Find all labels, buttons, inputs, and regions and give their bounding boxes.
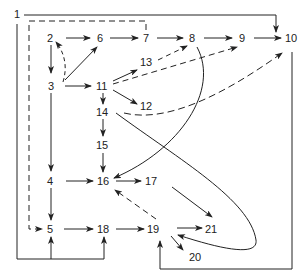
node-20: 20 <box>189 251 201 263</box>
node-19: 19 <box>147 223 159 235</box>
edge-1-10 <box>24 15 276 32</box>
node-16: 16 <box>97 175 109 187</box>
edge-11-13 <box>113 70 137 81</box>
flow-diagram: 1 2 3 4 5 6 7 8 9 10 11 12 13 14 15 16 1… <box>0 0 308 280</box>
node-10: 10 <box>285 32 297 44</box>
edge-11-9 <box>113 47 237 84</box>
node-14: 14 <box>96 106 108 118</box>
edge-17-21 <box>172 187 212 217</box>
node-12: 12 <box>140 100 152 112</box>
edge-19-16 <box>115 190 156 219</box>
edge-3-6 <box>65 47 97 80</box>
node-8: 8 <box>189 32 195 44</box>
node-6: 6 <box>97 32 103 44</box>
node-11: 11 <box>96 80 107 92</box>
node-9: 9 <box>239 32 245 44</box>
node-7: 7 <box>143 32 149 44</box>
edge-1-left <box>17 24 104 259</box>
node-5: 5 <box>47 223 53 235</box>
edge-8-16 <box>114 47 204 178</box>
node-2: 2 <box>47 32 53 44</box>
node-13: 13 <box>140 56 152 68</box>
node-4: 4 <box>47 175 53 187</box>
edge-10-19 <box>160 52 292 269</box>
node-3: 3 <box>48 80 54 92</box>
edge-11-12 <box>113 90 137 104</box>
edge-11-8 <box>158 46 187 60</box>
node-1: 1 <box>14 8 20 20</box>
node-17: 17 <box>145 175 157 187</box>
node-21: 21 <box>205 223 217 235</box>
edge-19-20 <box>171 236 183 250</box>
edge-7-5 <box>29 21 146 229</box>
node-15: 15 <box>96 139 108 151</box>
node-18: 18 <box>97 223 109 235</box>
edge-3-2 <box>56 42 65 82</box>
